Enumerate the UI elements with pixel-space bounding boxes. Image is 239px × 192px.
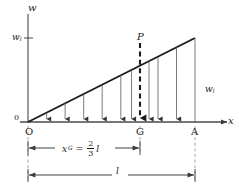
w-tick-symbol: w (12, 32, 20, 42)
load-profile-line (28, 38, 195, 122)
dimension-label-span: l (116, 167, 119, 176)
max-ordinate-label: wl (205, 85, 215, 95)
point-label-A: A (191, 127, 198, 137)
dimension-line-span (28, 169, 195, 182)
diagram-canvas (0, 0, 239, 192)
centroid-symbol: x (62, 145, 67, 154)
dimension-label-centroid: xG=23l (62, 140, 99, 158)
fraction-numerator: 2 (87, 140, 94, 148)
point-label-G: G (136, 127, 144, 137)
max-ordinate-symbol: w (205, 84, 213, 94)
span-symbol-in-centroid: l (96, 145, 99, 154)
w-axis-label: w (28, 3, 37, 13)
fraction-denominator: 3 (87, 150, 94, 158)
fraction-two-thirds: 23 (87, 140, 94, 158)
centroid-subscript: G (68, 146, 73, 152)
equals-sign: = (76, 145, 84, 154)
w-tick-subscript: l (20, 36, 22, 42)
origin-zero-marker: 0 (14, 114, 19, 122)
max-ordinate-subscript: l (213, 88, 215, 94)
load-diagram-figure: w x wl wl 0 O G A P xG=23l l (0, 0, 239, 192)
x-axis-label: x (228, 116, 234, 126)
w-axis-tick-label: wl (12, 33, 22, 43)
point-label-O: O (25, 127, 33, 137)
resultant-label: P (137, 32, 144, 42)
dimension-witness-lines (28, 126, 195, 180)
